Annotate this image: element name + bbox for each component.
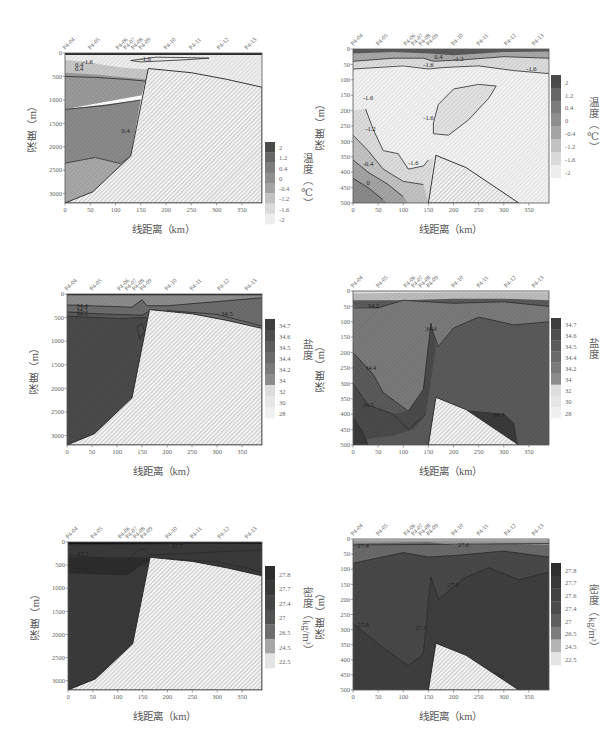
x-tick-label: 300 [499,693,509,700]
y-tick-label: 400 [340,656,350,663]
colorbar-tick-label: 27 [565,618,572,625]
x-axis-label: 线距离（km） [419,708,482,723]
colorbar-tick-label: 27.4 [565,605,577,612]
colorbar-tick-label: 26.5 [565,630,576,637]
y-tick-label: 300 [340,626,350,633]
y-tick-label: 50 [344,550,351,557]
contour-plot-svg: 27.427.627.827.827.705010015020025030035… [0,0,612,750]
station-label: P4-10 [450,522,464,536]
colorbar-label: 密度（kg/m³） [585,584,600,653]
station-label: P4-04 [349,522,363,536]
y-tick-label: 0 [347,535,350,542]
contour-fill-layers: 27.427.627.827.827.7 [353,539,549,690]
colorbar-tick-label: 27.7 [565,579,577,586]
x-tick-label: 150 [424,693,434,700]
y-tick-label: 350 [340,641,350,648]
colorbar-tick-label: 27.6 [565,592,577,599]
station-label: P4-13 [530,522,544,536]
y-tick-label: 450 [340,671,350,678]
colorbar-tick-label: 27.8 [565,567,576,574]
colorbar-tick-label: 22.5 [565,656,576,663]
contour-label: 27.8 [357,621,368,628]
y-tick-label: 100 [340,565,350,572]
station-label: P4-12 [503,522,517,536]
contour-label: 27.6 [458,541,470,548]
y-tick-label: 500 [340,686,350,693]
y-tick-label: 150 [340,581,350,588]
y-tick-label: 200 [340,596,350,603]
y-axis-label: 深度（m） [313,587,328,639]
colorbar: 27.827.727.627.42726.524.522.5 [551,563,577,665]
contour-label: 27.8 [448,581,459,588]
y-tick-label: 250 [340,611,350,618]
x-tick-label: 0 [351,693,354,700]
contour-label: 27.7 [415,624,427,631]
x-tick-label: 200 [449,693,459,700]
station-label: P4-05 [375,522,389,536]
contour-label: 27.4 [357,542,369,549]
station-label: P4-11 [475,522,489,536]
density-upper-500m-section: 27.427.627.827.827.705010015020025030035… [0,0,306,250]
x-tick-label: 350 [524,693,534,700]
x-tick-label: 50 [375,693,382,700]
colorbar-tick-label: 24.5 [565,643,576,650]
x-tick-label: 250 [474,693,484,700]
x-tick-label: 100 [398,693,408,700]
